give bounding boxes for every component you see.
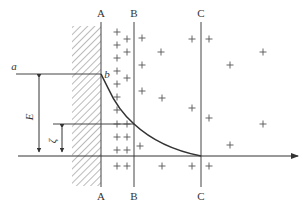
plus-icon xyxy=(114,147,121,154)
plus-icon xyxy=(159,95,166,102)
plus-icon xyxy=(139,88,146,95)
plus-icon xyxy=(124,163,131,170)
plus-icon xyxy=(114,121,121,128)
plus-icon xyxy=(139,62,146,69)
label-B-bottom: B xyxy=(130,190,137,202)
plus-icon xyxy=(260,49,267,56)
plus-icon xyxy=(189,36,196,43)
potential-curve xyxy=(101,74,201,156)
plus-icon xyxy=(206,163,213,170)
label-point-a: a xyxy=(11,60,17,72)
positive-ions-group xyxy=(114,29,267,170)
plus-icon xyxy=(158,49,165,56)
plus-icon xyxy=(137,143,144,150)
plus-icon xyxy=(124,36,131,43)
plus-icon xyxy=(124,75,131,82)
plus-icon xyxy=(114,134,121,141)
label-E: E xyxy=(23,113,35,121)
plus-icon xyxy=(159,163,166,170)
plus-icon xyxy=(114,55,121,62)
plus-icon xyxy=(189,105,196,112)
plus-icon xyxy=(260,121,267,128)
plus-icon xyxy=(206,115,213,122)
plus-icon xyxy=(189,163,196,170)
plus-icon xyxy=(124,49,131,56)
plus-icon xyxy=(114,81,121,88)
plus-icon xyxy=(139,35,146,42)
plus-icon xyxy=(114,29,121,36)
plus-icon xyxy=(206,36,213,43)
plus-icon xyxy=(114,68,121,75)
plus-icon xyxy=(227,62,234,69)
label-point-b: b xyxy=(104,68,110,80)
label-B-top: B xyxy=(130,7,137,19)
solid-wall-hatched xyxy=(72,26,101,186)
plus-icon xyxy=(114,42,121,49)
label-A-bottom: A xyxy=(97,190,105,202)
plus-icon xyxy=(124,121,131,128)
label-C-top: C xyxy=(197,7,204,19)
label-C-bottom: C xyxy=(197,190,204,202)
plus-icon xyxy=(227,142,234,149)
plus-icon xyxy=(124,147,131,154)
electric-double-layer-diagram: A B C A B C a b E ζ xyxy=(0,0,306,212)
label-zeta: ζ xyxy=(46,137,59,143)
label-A-top: A xyxy=(97,7,105,19)
plus-icon xyxy=(124,134,131,141)
plus-icon xyxy=(114,163,121,170)
